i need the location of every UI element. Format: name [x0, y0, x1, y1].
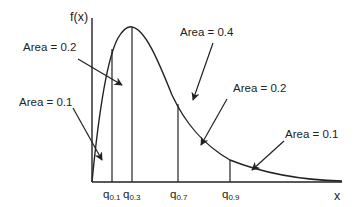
quantile-label-q03: q0.3	[123, 189, 141, 202]
area-label-3: Area = 0.2	[233, 83, 286, 95]
area-label-0: Area = 0.1	[19, 97, 72, 109]
x-axis-label: x	[334, 190, 340, 203]
arrow-area-2	[193, 43, 213, 100]
area-label-4: Area = 0.1	[285, 129, 338, 141]
arrow-area-4	[252, 141, 284, 170]
density-curve	[92, 27, 342, 182]
quantile-label-q01: q0.1	[103, 189, 121, 202]
quantile-label-q07: q0.7	[170, 189, 188, 202]
area-label-2: Area = 0.4	[180, 27, 233, 39]
arrow-area-1	[78, 59, 122, 85]
quantile-label-q09: q0.9	[222, 189, 240, 202]
y-axis-label: f(x)	[70, 11, 88, 24]
arrow-area-3	[201, 99, 227, 145]
area-label-1: Area = 0.2	[23, 42, 76, 54]
